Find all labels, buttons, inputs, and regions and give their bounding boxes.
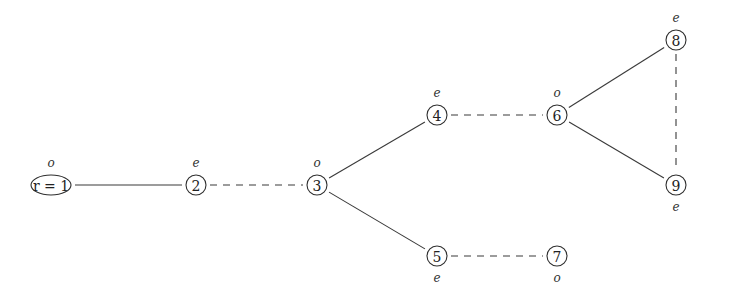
nodes-layer: r = 1o2e3o4e5e6o7o8e9e (31, 11, 686, 285)
edge-3-5-solid (329, 192, 425, 249)
node-label: r = 1 (33, 178, 69, 194)
parity-label: e (192, 156, 199, 170)
parity-label: e (672, 200, 679, 214)
edge-3-4-solid (329, 122, 425, 178)
node-label: 2 (192, 178, 201, 194)
parity-label: e (672, 11, 679, 25)
node-label: 3 (313, 178, 322, 194)
node-label: 7 (553, 249, 562, 265)
parity-label: o (553, 271, 560, 285)
node-1: r = 1o (31, 156, 71, 195)
node-label: 8 (672, 33, 681, 49)
edge-6-9-solid (569, 122, 664, 178)
edge-6-8-solid (569, 47, 664, 107)
parity-label: o (313, 156, 320, 170)
parity-label: o (47, 156, 54, 170)
parity-label: e (433, 86, 440, 100)
node-label: 4 (433, 108, 442, 124)
node-5: 5e (427, 246, 447, 285)
parity-label: o (553, 86, 560, 100)
node-4: 4e (427, 86, 447, 125)
node-label: 9 (672, 178, 681, 194)
node-3: 3o (307, 156, 327, 195)
node-2: 2e (186, 156, 206, 195)
node-7: 7o (547, 246, 567, 285)
node-9: 9e (666, 175, 686, 214)
node-label: 6 (553, 108, 562, 124)
parity-label: e (433, 271, 440, 285)
graph-diagram: r = 1o2e3o4e5e6o7o8e9e (0, 0, 729, 300)
node-6: 6o (547, 86, 567, 125)
node-8: 8e (666, 11, 686, 50)
node-label: 5 (433, 249, 442, 265)
edges-layer (75, 47, 676, 256)
